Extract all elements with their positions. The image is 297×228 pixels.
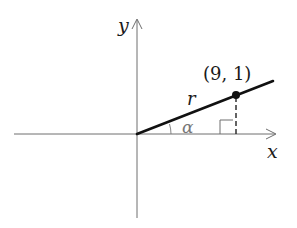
y-axis-label: y — [117, 14, 129, 36]
angle-label: α — [182, 117, 194, 137]
right-angle-marker — [220, 120, 233, 134]
y-axis — [132, 19, 142, 218]
ray-label: r — [187, 88, 197, 109]
ray-r — [137, 81, 273, 134]
point-label: (9, 1) — [203, 63, 251, 84]
angle-arc — [170, 124, 172, 134]
coordinate-diagram: y x (9, 1) r α — [0, 0, 297, 228]
point-marker — [232, 91, 240, 99]
x-axis-label: x — [267, 140, 278, 162]
